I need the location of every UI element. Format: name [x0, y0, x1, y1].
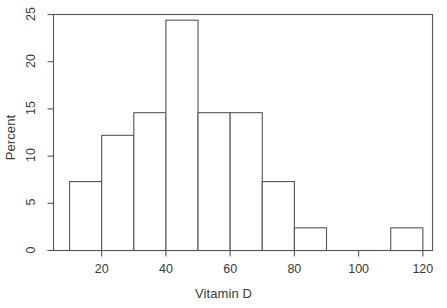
histogram-bars: [70, 20, 423, 250]
histogram-bar: [166, 20, 198, 250]
y-tick-label: 0: [24, 235, 38, 265]
histogram-figure: Percent Vitamin D 20406080100120 0510152…: [0, 0, 447, 308]
y-tick-label: 20: [24, 46, 38, 76]
x-tick-label: 40: [146, 262, 186, 276]
histogram-bar: [198, 113, 230, 251]
y-tick-label: 15: [24, 93, 38, 123]
y-axis-ticks: [48, 15, 54, 251]
y-tick-label: 10: [24, 140, 38, 170]
x-tick-label: 80: [274, 262, 314, 276]
y-axis-title: Percent: [3, 98, 18, 178]
x-tick-label: 20: [82, 262, 122, 276]
histogram-bar: [134, 113, 166, 251]
y-tick-label: 25: [24, 0, 38, 29]
y-tick-label: 5: [24, 187, 38, 217]
histogram-bar: [102, 135, 134, 250]
histogram-bar: [230, 113, 262, 251]
histogram-bar: [294, 228, 326, 251]
x-axis-title: Vitamin D: [0, 286, 447, 301]
histogram-bar: [262, 182, 294, 251]
histogram-bar: [391, 228, 423, 251]
x-tick-label: 60: [210, 262, 250, 276]
x-tick-label: 100: [339, 262, 379, 276]
x-tick-label: 120: [403, 262, 443, 276]
x-axis-ticks: [102, 251, 423, 257]
histogram-bar: [70, 182, 102, 251]
